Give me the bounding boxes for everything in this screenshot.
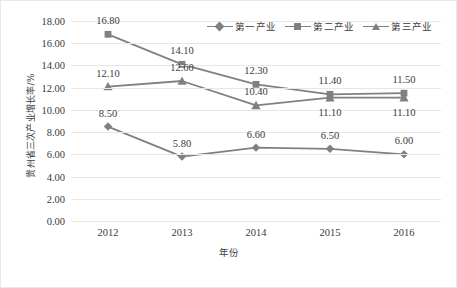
gridline — [71, 221, 441, 222]
data-point-marker — [326, 145, 334, 153]
y-tick-label: 16.00 — [41, 38, 65, 49]
gridline — [71, 132, 441, 133]
series-line — [108, 127, 404, 157]
x-tick-label: 2012 — [98, 227, 119, 238]
data-point-marker — [252, 143, 260, 151]
x-tick-label: 2013 — [172, 227, 193, 238]
gridline — [71, 154, 441, 155]
x-tick-label: 2015 — [320, 227, 341, 238]
x-axis-tick-labels: 20122013201420152016 — [71, 227, 441, 243]
y-tick-label: 12.00 — [41, 82, 65, 93]
y-tick-label: 18.00 — [41, 16, 65, 27]
y-tick-label: 14.00 — [41, 60, 65, 71]
data-point-marker — [179, 61, 186, 68]
data-point-marker — [104, 122, 112, 130]
y-axis-tick-labels: 18.0016.0014.0012.0010.008.006.004.002.0… — [25, 21, 65, 221]
x-tick-label: 2016 — [394, 227, 415, 238]
x-tick-label: 2014 — [246, 227, 267, 238]
gridline — [71, 199, 441, 200]
x-axis-title: 年份 — [1, 245, 457, 259]
y-tick-label: 8.00 — [47, 127, 65, 138]
gridline — [71, 110, 441, 111]
gridline — [71, 65, 441, 66]
y-tick-label: 6.00 — [47, 149, 65, 160]
gridline — [71, 43, 441, 44]
y-tick-label: 4.00 — [47, 171, 65, 182]
data-point-marker — [105, 31, 112, 38]
gridline — [71, 21, 441, 22]
plot-area: 8.505.806.606.506.0016.8014.1012.3011.40… — [71, 21, 441, 221]
series-svg — [71, 21, 441, 221]
y-tick-label: 10.00 — [41, 104, 65, 115]
y-tick-label: 2.00 — [47, 193, 65, 204]
gridline — [71, 177, 441, 178]
line-chart: 第一产业 第二产业 第三产业 贵州省三次产业增长率/% 18.0016.0014… — [0, 0, 457, 288]
y-tick-label: 0.00 — [47, 216, 65, 227]
gridline — [71, 88, 441, 89]
